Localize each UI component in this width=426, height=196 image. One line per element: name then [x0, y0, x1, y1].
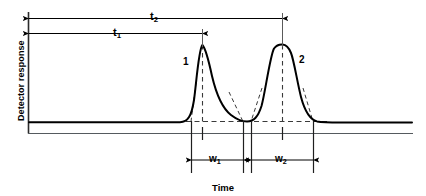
- peak-width-extension-lines: [192, 121, 314, 173]
- y-axis-title: Detector response: [17, 40, 26, 121]
- chromatogram-figure: Detector response Time t2 t1 w1 w2 1 2: [0, 0, 426, 196]
- peak1-label: 1: [183, 57, 189, 67]
- w2-subscript: 2: [283, 157, 287, 166]
- peak1-trailing-tangent: [229, 92, 243, 122]
- axes: [28, 12, 413, 134]
- detector-trace: [29, 45, 412, 123]
- t1-subscript: 1: [117, 31, 121, 40]
- t1-label: t1: [113, 27, 121, 38]
- x-axis-title: Time: [212, 183, 234, 193]
- peak2-label: 2: [299, 55, 305, 65]
- w1-label: w1: [209, 154, 221, 164]
- w1-base: w: [209, 153, 217, 164]
- t2-subscript: 2: [154, 15, 158, 24]
- chromatogram-plot: [0, 0, 426, 196]
- w2-label: w2: [275, 154, 287, 164]
- w2-base: w: [275, 153, 283, 164]
- peak2-trailing-tangent: [303, 88, 313, 122]
- w1-subscript: 1: [217, 157, 221, 166]
- t2-label: t2: [150, 11, 158, 22]
